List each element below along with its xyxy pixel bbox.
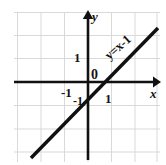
x-tick-label-1: 1 [105, 92, 112, 105]
y-axis [83, 10, 93, 160]
function-line [31, 28, 158, 158]
y-axis-label: y [92, 10, 98, 23]
y-tick-label-negative-1: -1 [73, 95, 83, 107]
origin-label: 0 [91, 68, 98, 82]
x-axis-label: x [150, 87, 157, 100]
y-tick-label-1: 1 [74, 51, 81, 64]
x-tick-label-negative-1: -1 [61, 86, 72, 99]
coordinate-plane [0, 0, 166, 165]
graph-figure: y x 1 0 -1 -1 1 y=x-1 [0, 0, 166, 165]
